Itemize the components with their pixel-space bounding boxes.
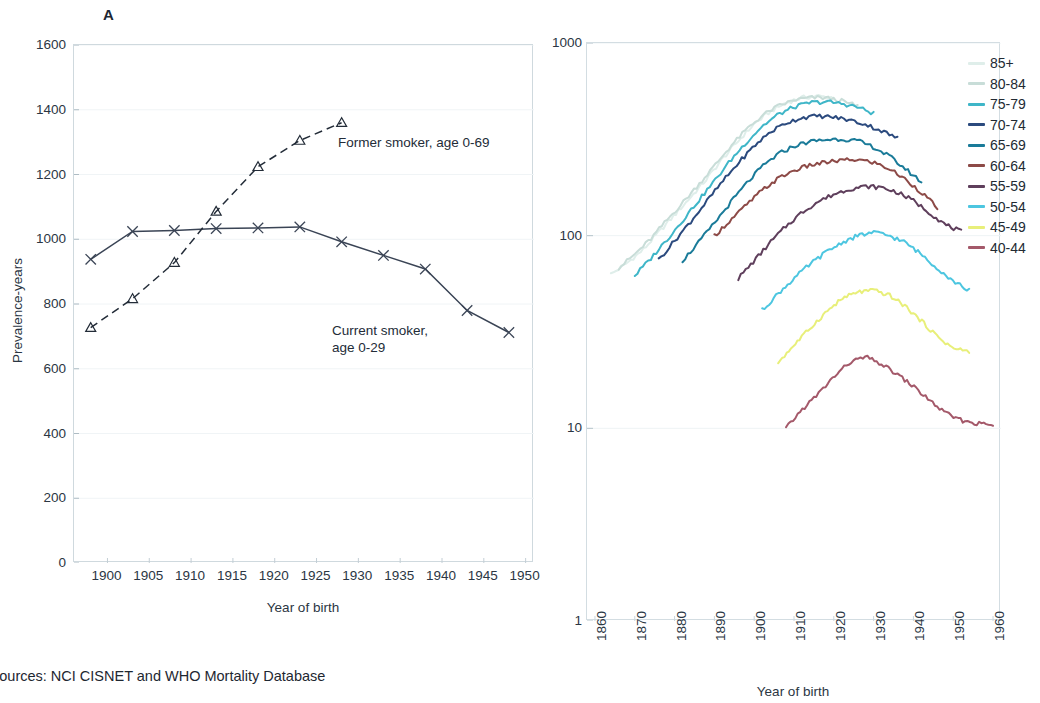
annotation-current-smoker: Current smoker, age 0-29 — [332, 322, 428, 356]
legend-label: 75-79 — [990, 96, 1026, 112]
panel-a-y-tick-600: 600 — [43, 360, 66, 375]
panel-b-series-line-65-69 — [683, 138, 922, 262]
legend-label: 60-64 — [990, 158, 1026, 174]
panel-a-marker-0-10 — [504, 327, 514, 337]
panel-b-x-tick-1890: 1890 — [713, 611, 728, 641]
panel-b: B Rate (per 100000) 1101001000 186018701… — [540, 0, 1040, 703]
legend-item-80-84[interactable]: 80-84 — [968, 74, 1040, 95]
panel-a-x-tick-1935: 1935 — [384, 568, 414, 583]
legend-swatch-icon — [968, 123, 985, 126]
panel-b-y-tick-1000: 1000 — [552, 35, 582, 50]
legend-label: 55-59 — [990, 178, 1026, 194]
panel-a-x-tick-1905: 1905 — [133, 568, 163, 583]
panel-a-plot-area — [73, 44, 533, 562]
legend-label: 40-44 — [990, 240, 1026, 256]
panel-a-marker-0-6 — [336, 237, 346, 247]
panel-a-series-line-1 — [91, 123, 342, 328]
panel-a-y-tick-1600: 1600 — [36, 37, 66, 52]
legend-swatch-icon — [968, 246, 985, 249]
panel-a-series-svg — [74, 45, 534, 563]
panel-a-marker-0-0 — [86, 254, 96, 264]
legend-item-50-54[interactable]: 50-54 — [968, 197, 1040, 218]
legend-item-55-59[interactable]: 55-59 — [968, 176, 1040, 197]
panel-a-marker-1-6 — [337, 118, 347, 127]
panel-b-series-line-45-49 — [778, 289, 969, 363]
panel-a-x-tick-1920: 1920 — [259, 568, 289, 583]
panel-a-x-tick-1915: 1915 — [217, 568, 247, 583]
legend-item-70-74[interactable]: 70-74 — [968, 115, 1040, 136]
panel-b-x-tick-1870: 1870 — [634, 611, 649, 641]
panel-b-series-line-40-44 — [786, 356, 993, 428]
panel-b-x-tick-1960: 1960 — [992, 611, 1007, 641]
panel-b-plot-area — [586, 42, 1000, 620]
panel-a-y-axis-title: Prevalence-years — [10, 231, 25, 391]
panel-a-x-tick-1930: 1930 — [342, 568, 372, 583]
panel-a-y-tick-1000: 1000 — [36, 231, 66, 246]
panel-b-x-tick-1920: 1920 — [833, 611, 848, 641]
legend-item-45-49[interactable]: 45-49 — [968, 217, 1040, 238]
panel-b-series-line-55-59 — [738, 185, 961, 280]
panel-b-x-tick-1940: 1940 — [912, 611, 927, 641]
legend-label: 85+ — [990, 55, 1014, 71]
source-caption: sources: NCI CISNET and WHO Mortality Da… — [0, 668, 325, 684]
panel-b-x-tick-1900: 1900 — [753, 611, 768, 641]
annotation-former-smoker: Former smoker, age 0-69 — [338, 134, 490, 151]
legend-item-75-79[interactable]: 75-79 — [968, 94, 1040, 115]
panel-a-marker-0-7 — [378, 250, 388, 260]
panel-a-x-tick-1940: 1940 — [426, 568, 456, 583]
panel-b-series-svg — [587, 43, 1001, 621]
panel-b-x-tick-1910: 1910 — [793, 611, 808, 641]
panel-a-y-tick-1200: 1200 — [36, 166, 66, 181]
panel-a-x-tick-1945: 1945 — [468, 568, 498, 583]
panel-a-series-line-0 — [91, 227, 509, 333]
panel-a-y-tick-800: 800 — [43, 296, 66, 311]
panel-b-x-tick-1930: 1930 — [873, 611, 888, 641]
legend-label: 50-54 — [990, 199, 1026, 215]
panel-a-x-tick-labels: 1900190519101915192019251930193519401945… — [0, 568, 545, 592]
legend-swatch-icon — [968, 62, 985, 65]
legend-label: 80-84 — [990, 76, 1026, 92]
panel-b-y-tick-100: 100 — [559, 227, 582, 242]
panel-b-x-tick-labels: 1860187018801890190019101920193019401950… — [540, 626, 1040, 686]
panel-a-x-tick-1950: 1950 — [510, 568, 540, 583]
legend-item-40-44[interactable]: 40-44 — [968, 238, 1040, 259]
legend-swatch-icon — [968, 185, 985, 188]
panel-b-series-line-80-84 — [619, 96, 858, 270]
panel-a-x-tick-1910: 1910 — [175, 568, 205, 583]
panel-a-x-tick-1925: 1925 — [301, 568, 331, 583]
panel-b-series-line-75-79 — [635, 101, 874, 276]
legend-swatch-icon — [968, 205, 985, 208]
legend-label: 45-49 — [990, 219, 1026, 235]
legend-item-65-69[interactable]: 65-69 — [968, 135, 1040, 156]
legend: 85+80-8475-7970-7465-6960-6455-5950-5445… — [968, 53, 1040, 258]
panel-a-x-tick-1900: 1900 — [91, 568, 121, 583]
panel-a-x-axis-title: Year of birth — [267, 600, 339, 615]
panel-a-letter: A — [103, 6, 114, 23]
legend-swatch-icon — [968, 82, 985, 85]
panel-b-x-tick-1860: 1860 — [594, 611, 609, 641]
legend-swatch-icon — [968, 164, 985, 167]
panel-b-y-tick-labels: 1101001000 — [540, 0, 582, 660]
panel-b-x-tick-1950: 1950 — [952, 611, 967, 641]
legend-swatch-icon — [968, 103, 985, 106]
panel-a-marker-0-8 — [420, 264, 430, 274]
panel-a-marker-0-9 — [462, 305, 472, 315]
panel-a-y-tick-200: 200 — [43, 490, 66, 505]
panel-a-y-tick-400: 400 — [43, 425, 66, 440]
legend-label: 70-74 — [990, 117, 1026, 133]
figure-root: A 02004006008001000120014001600 19001905… — [0, 0, 1040, 703]
panel-a-marker-1-4 — [253, 162, 263, 171]
legend-swatch-icon — [968, 226, 985, 229]
legend-swatch-icon — [968, 144, 985, 147]
legend-item-60-64[interactable]: 60-64 — [968, 156, 1040, 177]
legend-label: 65-69 — [990, 137, 1026, 153]
panel-b-y-tick-10: 10 — [567, 420, 582, 435]
panel-b-series-line-50-54 — [762, 231, 969, 309]
panel-a-y-tick-1400: 1400 — [36, 101, 66, 116]
legend-item-85+[interactable]: 85+ — [968, 53, 1040, 74]
panel-b-x-tick-1880: 1880 — [674, 611, 689, 641]
panel-a: A 02004006008001000120014001600 19001905… — [0, 0, 545, 660]
panel-b-x-axis-title: Year of birth — [757, 684, 829, 699]
